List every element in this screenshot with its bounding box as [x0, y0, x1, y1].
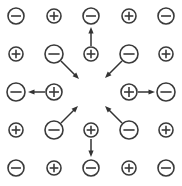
positive-charge-r1c0: [9, 47, 23, 61]
charge-lattice-figure: [0, 0, 182, 186]
positive-charge-r0c3: [122, 9, 136, 23]
positive-charge-r1c4: [159, 47, 173, 61]
negative-charge-r2c4: [157, 83, 175, 101]
positive-charge-r1c2: [84, 47, 98, 61]
positive-charge-r2c3: [121, 84, 137, 100]
negative-charge-r0c4: [158, 8, 174, 24]
positive-charge-r0c1: [47, 9, 61, 23]
negative-charge-r1c3: [120, 45, 138, 63]
negative-charge-r2c0: [7, 83, 25, 101]
negative-charge-r4c4: [158, 160, 174, 176]
positive-charge-r3c4: [159, 123, 173, 137]
positive-charge-r3c0: [9, 123, 23, 137]
charge-lattice-canvas: [0, 0, 182, 186]
positive-charge-r2c1: [46, 84, 62, 100]
negative-charge-r4c2: [83, 160, 99, 176]
negative-charge-r0c2: [83, 8, 99, 24]
negative-charge-r3c3: [120, 121, 138, 139]
negative-charge-r1c1: [45, 45, 63, 63]
positive-charge-r3c2: [84, 123, 98, 137]
positive-charge-r4c1: [47, 161, 61, 175]
negative-charge-r4c0: [8, 160, 24, 176]
negative-charge-r0c0: [8, 8, 24, 24]
negative-charge-r3c1: [45, 121, 63, 139]
positive-charge-r4c3: [122, 161, 136, 175]
